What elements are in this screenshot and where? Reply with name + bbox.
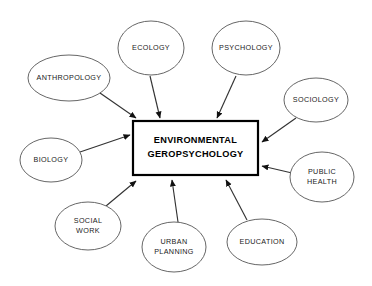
node-education[interactable]: EDUCATION	[227, 219, 297, 265]
node-ecology-label: ECOLOGY	[132, 43, 170, 52]
arrow-social-work-to-center	[106, 181, 136, 206]
node-urban-planning-label: URBAN	[161, 237, 188, 246]
node-biology-label: BIOLOGY	[34, 155, 69, 164]
node-psychology-label: PSYCHOLOGY	[219, 43, 273, 52]
node-urban-planning[interactable]: URBANPLANNING	[142, 222, 206, 272]
node-social-work[interactable]: SOCIALWORK	[55, 202, 121, 250]
node-public-health[interactable]: PUBLICHEALTH	[290, 152, 354, 202]
node-social-work-label: SOCIAL	[74, 216, 102, 225]
node-social-work-label: WORK	[76, 226, 100, 235]
arrow-ecology-to-center	[150, 76, 160, 118]
node-biology[interactable]: BIOLOGY	[20, 138, 82, 182]
node-public-health-label: PUBLIC	[308, 167, 336, 176]
node-anthropology[interactable]: ANTHROPOLOGY	[28, 55, 110, 101]
node-anthropology-label: ANTHROPOLOGY	[37, 73, 102, 82]
node-sociology[interactable]: SOCIOLOGY	[284, 78, 348, 122]
node-ecology[interactable]: ECOLOGY	[118, 21, 184, 75]
center-label-line1: ENVIRONMENTAL	[154, 135, 237, 145]
node-psychology[interactable]: PSYCHOLOGY	[212, 21, 280, 75]
diagram-canvas: ANTHROPOLOGYECOLOGYPSYCHOLOGYSOCIOLOGYPU…	[0, 0, 372, 286]
node-education-label: EDUCATION	[240, 237, 285, 246]
node-public-health-label: HEALTH	[307, 177, 337, 186]
center-box	[133, 121, 258, 175]
center-label-line2: GEROPSYCHOLOGY	[147, 149, 243, 159]
arrow-urban-planning-to-center	[172, 180, 178, 222]
node-urban-planning-label: PLANNING	[154, 247, 194, 256]
center-node: ENVIRONMENTAL GEROPSYCHOLOGY	[133, 121, 258, 175]
node-sociology-label: SOCIOLOGY	[293, 95, 339, 104]
arrow-education-to-center	[226, 180, 247, 220]
arrow-biology-to-center	[80, 135, 130, 152]
arrow-sociology-to-center	[262, 118, 296, 142]
concept-map-svg: ANTHROPOLOGYECOLOGYPSYCHOLOGYSOCIOLOGYPU…	[0, 0, 372, 286]
arrow-public-health-to-center	[262, 166, 292, 173]
arrow-anthropology-to-center	[100, 93, 136, 118]
arrow-psychology-to-center	[217, 76, 236, 118]
